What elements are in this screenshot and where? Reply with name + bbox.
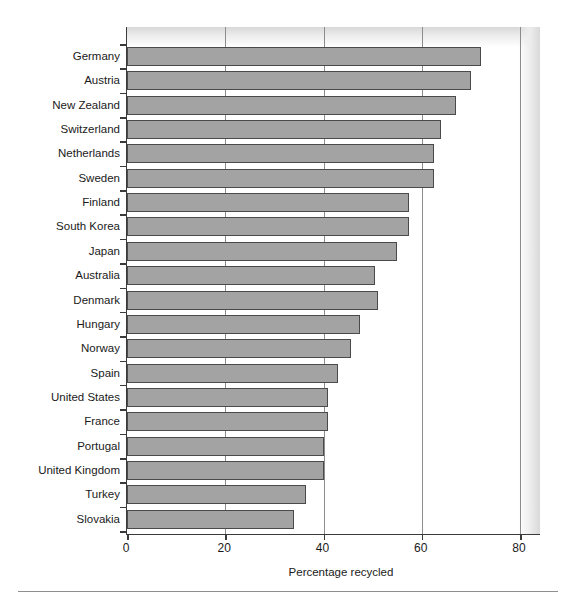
category-label-new-zealand: New Zealand	[4, 99, 120, 111]
bar-spain	[127, 364, 338, 383]
bar-japan	[127, 242, 397, 261]
x-tick-60	[422, 534, 424, 540]
y-tick-6	[120, 190, 127, 192]
x-tick-label-60: 60	[401, 542, 441, 555]
category-label-united-states: United States	[4, 391, 120, 403]
category-label-united-kingdom: United Kingdom	[4, 464, 120, 476]
category-label-switzerland: Switzerland	[4, 123, 120, 135]
y-tick-18	[120, 482, 127, 484]
category-label-south-korea: South Korea	[4, 220, 120, 232]
y-tick-20	[120, 531, 127, 533]
y-tick-7	[120, 214, 127, 216]
y-tick-10	[120, 288, 127, 290]
bar-portugal	[127, 437, 324, 456]
y-tick-19	[120, 507, 127, 509]
y-tick-3	[120, 117, 127, 119]
x-tick-40	[324, 534, 326, 540]
bar-norway	[127, 339, 351, 358]
x-axis-title: Percentage recycled	[0, 566, 568, 578]
y-tick-15	[120, 409, 127, 411]
bar-slovakia	[127, 510, 294, 529]
bar-turkey	[127, 485, 306, 504]
y-tick-5	[120, 166, 127, 168]
y-tick-2	[120, 93, 127, 95]
y-tick-16	[120, 434, 127, 436]
category-label-spain: Spain	[4, 367, 120, 379]
chart-figure: GermanyAustriaNew ZealandSwitzerlandNeth…	[0, 0, 568, 603]
x-tick-label-20: 20	[204, 542, 244, 555]
category-label-finland: Finland	[4, 196, 120, 208]
y-tick-11	[120, 312, 127, 314]
x-tick-20	[225, 534, 227, 540]
bar-sweden	[127, 169, 434, 188]
plot-area	[126, 27, 540, 535]
bar-south-korea	[127, 217, 409, 236]
category-label-austria: Austria	[4, 74, 120, 86]
category-label-turkey: Turkey	[4, 488, 120, 500]
bar-united-kingdom	[127, 461, 324, 480]
bar-new-zealand	[127, 96, 456, 115]
category-label-norway: Norway	[4, 342, 120, 354]
gridline-80	[520, 27, 521, 534]
category-label-france: France	[4, 415, 120, 427]
bar-denmark	[127, 291, 378, 310]
plot-top-shading	[127, 27, 540, 47]
category-label-australia: Australia	[4, 269, 120, 281]
bar-netherlands	[127, 144, 434, 163]
bar-france	[127, 412, 328, 431]
bar-hungary	[127, 315, 360, 334]
category-label-japan: Japan	[4, 245, 120, 257]
bar-australia	[127, 266, 375, 285]
category-label-netherlands: Netherlands	[4, 147, 120, 159]
bar-switzerland	[127, 120, 441, 139]
category-label-sweden: Sweden	[4, 172, 120, 184]
bar-austria	[127, 71, 471, 90]
y-tick-13	[120, 361, 127, 363]
y-tick-17	[120, 458, 127, 460]
bar-finland	[127, 193, 409, 212]
x-tick-label-40: 40	[303, 542, 343, 555]
x-axis-title-text: Percentage recycled	[289, 566, 394, 578]
bar-united-states	[127, 388, 328, 407]
x-tick-80	[520, 534, 522, 540]
y-tick-0	[120, 44, 127, 46]
y-tick-1	[120, 68, 127, 70]
y-tick-14	[120, 385, 127, 387]
category-label-germany: Germany	[4, 50, 120, 62]
y-tick-12	[120, 336, 127, 338]
x-tick-label-80: 80	[499, 542, 539, 555]
x-tick-label-0: 0	[106, 542, 146, 555]
category-label-slovakia: Slovakia	[4, 513, 120, 525]
plot-right-shading	[518, 27, 540, 534]
y-tick-9	[120, 263, 127, 265]
y-tick-4	[120, 141, 127, 143]
y-tick-8	[120, 239, 127, 241]
bar-germany	[127, 47, 481, 66]
x-tick-0	[127, 534, 129, 540]
category-label-hungary: Hungary	[4, 318, 120, 330]
category-label-portugal: Portugal	[4, 440, 120, 452]
bottom-divider	[18, 591, 558, 592]
category-label-denmark: Denmark	[4, 294, 120, 306]
